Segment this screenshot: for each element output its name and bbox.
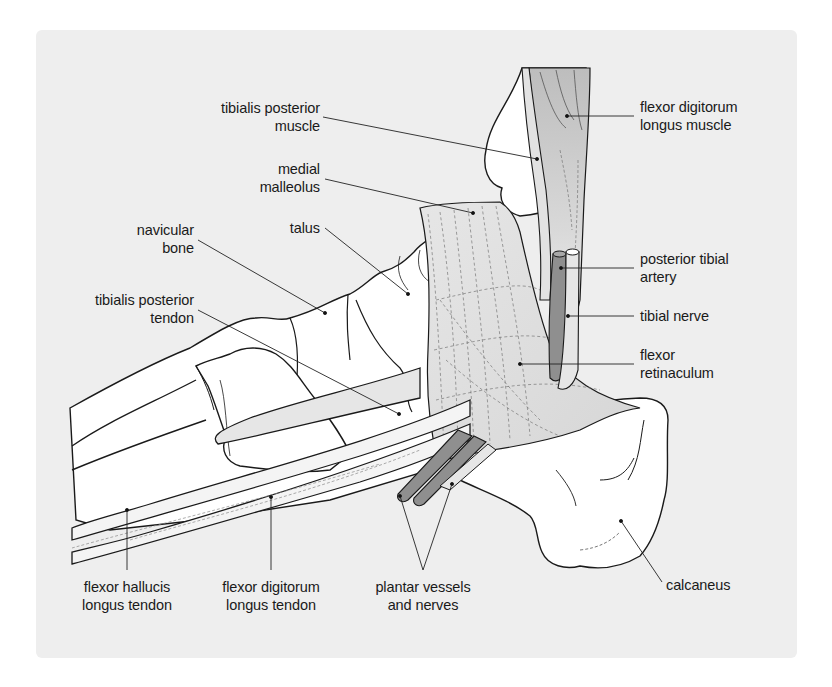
- label-posterior-tibial-artery: posterior tibial artery: [640, 250, 790, 286]
- label-tibial-nerve: tibial nerve: [640, 307, 790, 325]
- label-flexor-digitorum-longus-tendon: flexor digitorum longus tendon: [203, 578, 339, 614]
- label-calcaneus: calcaneus: [666, 576, 766, 594]
- label-tibialis-posterior-muscle: tibialis posterior muscle: [170, 99, 320, 135]
- label-flexor-hallucis-longus-tendon: flexor hallucis longus tendon: [62, 578, 192, 614]
- label-navicular-bone: navicular bone: [100, 221, 194, 257]
- label-talus: talus: [240, 219, 320, 237]
- label-plantar-vessels-and-nerves: plantar vessels and nerves: [357, 578, 489, 614]
- label-tibialis-posterior-tendon: tibialis posterior tendon: [44, 291, 194, 327]
- neurovascular-bundle: [549, 249, 579, 389]
- label-flexor-digitorum-longus-muscle: flexor digitorum longus muscle: [640, 98, 790, 134]
- label-medial-malleolus: medial malleolus: [200, 160, 320, 196]
- label-flexor-retinaculum: flexor retinaculum: [640, 346, 790, 382]
